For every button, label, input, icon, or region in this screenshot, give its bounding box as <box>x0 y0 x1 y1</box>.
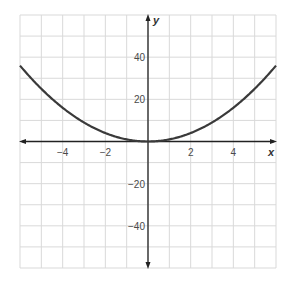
x-tick-label: −2 <box>100 147 112 158</box>
y-tick-label: 20 <box>134 94 146 105</box>
x-tick-label: 4 <box>231 147 237 158</box>
x-axis-label: x <box>267 146 275 158</box>
y-tick-label: 40 <box>134 52 146 63</box>
x-tick-label: −4 <box>57 147 69 158</box>
y-axis-label: y <box>152 14 160 26</box>
coordinate-plane: −4−224 4020−20−40 x y <box>0 0 289 281</box>
x-tick-label: 2 <box>188 147 194 158</box>
y-tick-label: −20 <box>128 179 145 190</box>
y-tick-label: −40 <box>128 221 145 232</box>
